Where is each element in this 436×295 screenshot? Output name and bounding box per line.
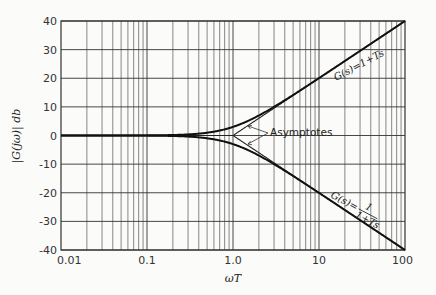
x-tick-label: 1.0 [224, 254, 242, 267]
x-axis-label: ωT [225, 272, 243, 285]
bode-magnitude-chart: 403020100-10-20-30-40 0.010.11.010100 G(… [0, 0, 436, 295]
y-tick-label: -10 [39, 158, 57, 171]
y-tick-label: -20 [39, 187, 57, 200]
y-tick-label: -30 [39, 215, 57, 228]
asymptote-pointer-lower [248, 133, 268, 144]
y-tick-label: 40 [43, 15, 57, 28]
y-tick-label: 0 [50, 130, 57, 143]
x-tick-label: 0.01 [57, 254, 82, 267]
y-tick-label: 10 [43, 101, 57, 114]
y-tick-label: 30 [43, 44, 57, 57]
curve-label-lag: G(s)= 1 1+Ts [326, 184, 387, 231]
x-tick-label: 100 [392, 254, 413, 267]
y-tick-label: 20 [43, 72, 57, 85]
y-axis-label: |G(jω)| db [10, 109, 24, 164]
asymptotes-label: Asymptotes [270, 126, 332, 138]
x-axis-tick-labels: 0.010.11.010100 [57, 254, 413, 267]
asymptote-pointer-upper [248, 126, 268, 133]
y-axis-tick-labels: 403020100-10-20-30-40 [39, 15, 57, 257]
x-tick-label: 0.1 [138, 254, 156, 267]
x-tick-label: 10 [312, 254, 326, 267]
y-tick-label: -40 [39, 244, 57, 257]
